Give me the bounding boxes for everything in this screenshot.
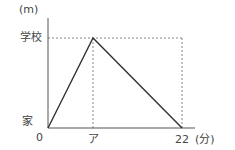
- distance-line: [48, 38, 182, 128]
- y-tick-school: 学校: [20, 32, 42, 44]
- y-axis-unit-label: (m): [19, 4, 38, 16]
- x-axis-unit-label: (分): [195, 134, 215, 146]
- x-tick-a: ア: [88, 134, 99, 146]
- x-tick-22: 22: [175, 134, 189, 146]
- x-tick-zero: 0: [36, 132, 43, 144]
- y-tick-home: 家: [22, 116, 33, 128]
- chart-canvas: [0, 0, 235, 150]
